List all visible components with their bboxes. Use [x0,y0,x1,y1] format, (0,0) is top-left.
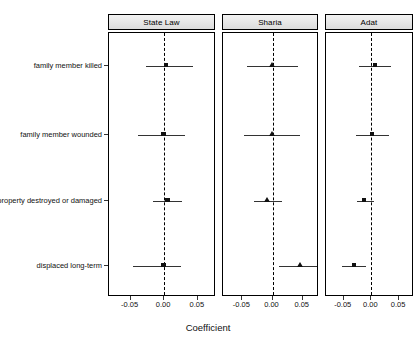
point-estimate-marker [264,197,270,202]
estimate-row [223,130,317,141]
x-axis-tick-label: 0.05 [391,300,406,309]
y-axis-tick-label: family member wounded [20,130,102,139]
estimate-row [223,196,317,207]
zero-reference-line [273,33,274,295]
x-axis-tick-label: -0.05 [233,300,250,309]
point-estimate-marker [269,62,275,67]
y-axis-tick-label: displaced long-term [37,261,102,270]
x-axis-tick-label: -0.05 [121,300,138,309]
point-estimate-marker [161,263,165,267]
x-axis-tick [241,296,242,300]
x-axis: -0.050.000.05 [108,296,215,312]
plot-area [222,32,318,296]
x-axis-tick-label: 0.00 [363,300,378,309]
estimate-row [109,61,214,72]
point-estimate-marker [165,198,169,202]
estimate-row [326,61,412,72]
estimate-row [223,261,317,272]
estimate-row [326,261,412,272]
y-axis-tick-label: family member killed [34,61,102,70]
x-axis-tick [197,296,198,300]
point-estimate-marker [161,132,165,136]
x-axis: -0.050.000.05 [325,296,413,312]
y-axis-tick-label: property destroyed or damaged [0,196,102,205]
panel-state-law: State Law [108,14,215,296]
panel-strip-label: State Law [108,14,215,30]
panel-adat: Adat [325,14,413,296]
x-axis-tick [370,296,371,300]
x-axis-tick-label: 0.00 [264,300,279,309]
estimate-row [326,130,412,141]
estimate-row [109,130,214,141]
point-estimate-marker [164,63,168,67]
y-axis-tick [104,65,108,66]
panel-sharia: Sharia [222,14,318,296]
zero-reference-line [371,33,372,295]
panel-strip-label: Sharia [222,14,318,30]
point-estimate-marker [362,198,366,202]
y-axis-tick [104,134,108,135]
x-axis-title: Coefficient [0,322,416,333]
y-axis-tick [104,265,108,266]
point-estimate-marker [370,132,374,136]
point-estimate-marker [269,131,275,136]
x-axis-tick-label: -0.05 [334,300,351,309]
x-axis-tick-label: 0.05 [190,300,205,309]
x-axis-tick [272,296,273,300]
confidence-interval-bar [133,266,181,267]
estimate-row [326,196,412,207]
point-estimate-marker [352,263,356,267]
x-axis-tick-label: 0.00 [156,300,171,309]
point-estimate-marker [373,63,377,67]
x-axis-tick [302,296,303,300]
plot-area [325,32,413,296]
x-axis-tick [343,296,344,300]
y-axis-tick [104,200,108,201]
estimate-row [109,261,214,272]
plot-area [108,32,215,296]
x-axis-tick [163,296,164,300]
x-axis-tick [398,296,399,300]
estimate-row [109,196,214,207]
x-axis-tick-label: 0.05 [294,300,309,309]
point-estimate-marker [297,262,303,267]
x-axis: -0.050.000.05 [222,296,318,312]
coefficient-plot-figure: family member killedfamily member wounde… [0,0,416,339]
x-axis-tick [130,296,131,300]
confidence-interval-bar [146,66,193,67]
zero-reference-line [164,33,165,295]
panel-strip-label: Adat [325,14,413,30]
estimate-row [223,61,317,72]
